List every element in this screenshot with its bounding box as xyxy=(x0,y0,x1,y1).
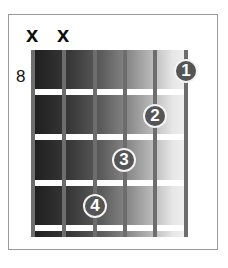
fret-3 xyxy=(33,180,188,186)
finger-marker: 1 xyxy=(174,59,198,83)
finger-marker: 2 xyxy=(143,104,167,128)
mute-icon: x xyxy=(57,24,69,46)
fretboard xyxy=(33,50,188,237)
fret-2 xyxy=(33,134,188,140)
starting-fret-number: 8 xyxy=(16,67,25,87)
finger-marker: 4 xyxy=(83,194,107,218)
fret-1 xyxy=(33,89,188,95)
fret-4 xyxy=(33,225,188,231)
mute-icon: x xyxy=(26,24,38,46)
string-4 xyxy=(123,50,127,237)
string-1 xyxy=(31,50,35,237)
finger-marker: 3 xyxy=(112,148,136,172)
string-2 xyxy=(62,50,66,237)
string-5 xyxy=(153,50,157,237)
